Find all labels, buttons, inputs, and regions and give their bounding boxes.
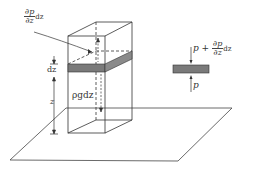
weight-label: ρgdz — [72, 91, 94, 100]
column-slab — [68, 51, 132, 72]
fluid-column — [68, 22, 132, 133]
bottom-force-label: p — [193, 81, 199, 90]
leader-line — [34, 32, 92, 52]
dz-suffix: dz — [35, 13, 43, 21]
dz-label: dz — [47, 66, 56, 74]
top-force-label: p + ∂p∂zdz — [193, 40, 231, 57]
diagram-canvas — [0, 0, 256, 170]
fraction-denominator: ∂z — [214, 49, 222, 57]
gradient-term-label: ∂p∂zdz — [24, 8, 43, 25]
force-prefix: p + — [193, 43, 209, 53]
internal-force-arrows — [97, 38, 103, 112]
z-label: z — [50, 98, 54, 106]
fraction-denominator: ∂z — [25, 17, 33, 25]
ground-plane — [10, 108, 232, 161]
dz-suffix: dz — [223, 45, 231, 53]
